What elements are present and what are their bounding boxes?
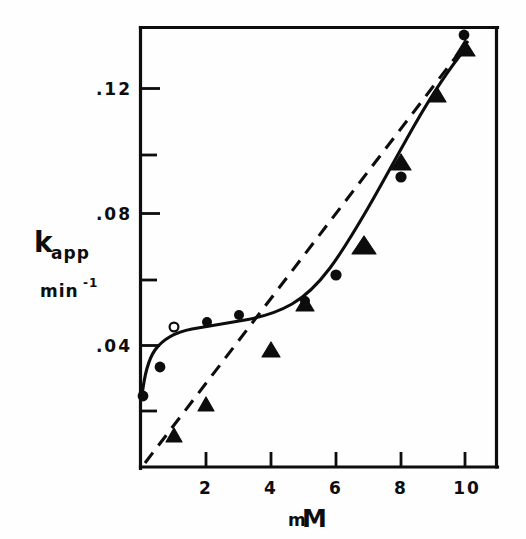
solid-curve-path xyxy=(142,48,466,396)
x-tick-label-6: 6 xyxy=(329,478,343,498)
data-point-circle-open xyxy=(170,323,179,332)
data-point-triangle xyxy=(455,40,475,56)
x-axis-title: m M xyxy=(288,504,328,533)
figure-container: .12 .08 .04 2 4 6 8 10 k app min -1 m M xyxy=(0,0,526,539)
dashed-line-path xyxy=(145,41,468,463)
y-axis-units-exponent: -1 xyxy=(83,276,98,290)
x-tick-label-10: 10 xyxy=(453,478,481,498)
data-point-circle-filled xyxy=(155,362,166,373)
data-point-circle-filled xyxy=(138,391,149,402)
y-axis-title: k app min -1 xyxy=(34,226,98,301)
scientific-plot: .12 .08 .04 2 4 6 8 10 k app min -1 m M xyxy=(0,0,526,539)
data-point-circle-filled xyxy=(330,269,341,280)
data-point-circle-filled xyxy=(202,317,212,327)
data-point-circle-filled xyxy=(234,310,244,320)
y-axis-title-subscript: app xyxy=(51,243,90,263)
x-axis-ticks xyxy=(206,452,465,466)
x-axis-title-suffix: M xyxy=(302,504,328,533)
solid-curve-markers xyxy=(138,30,470,402)
data-point-triangle xyxy=(198,397,214,411)
y-tick-label-0.12: .12 xyxy=(96,79,132,99)
x-tick-label-4: 4 xyxy=(264,478,278,498)
plot-frame xyxy=(141,28,498,469)
x-tick-labels: 2 4 6 8 10 xyxy=(199,478,481,498)
data-point-circle-filled xyxy=(395,171,406,182)
data-point-circle-filled xyxy=(459,30,470,41)
x-tick-label-2: 2 xyxy=(199,478,213,498)
y-axis-units: min xyxy=(40,281,79,301)
y-tick-labels: .12 .08 .04 xyxy=(96,79,132,356)
data-point-triangle xyxy=(166,428,182,442)
data-point-triangle xyxy=(352,236,376,254)
dashed-line-markers xyxy=(166,40,475,442)
y-tick-label-0.08: .08 xyxy=(96,204,132,224)
y-tick-label-0.04: .04 xyxy=(96,336,132,356)
x-tick-label-8: 8 xyxy=(394,478,408,498)
data-point-triangle xyxy=(262,342,280,357)
